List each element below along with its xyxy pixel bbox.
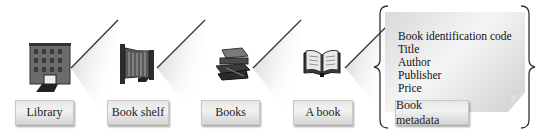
library-building-icon bbox=[28, 42, 74, 94]
stage-label-a-book: A book bbox=[293, 100, 353, 125]
wedge-2 bbox=[157, 20, 205, 110]
stage-label-book-metadata: Book metadata bbox=[395, 100, 469, 125]
metadata-field: Title bbox=[398, 43, 512, 56]
library-hierarchy-diagram: Book identification code Title Author Pu… bbox=[0, 0, 537, 134]
metadata-field: Price bbox=[398, 82, 512, 95]
metadata-field: Author bbox=[398, 56, 512, 69]
stage-label-bookshelf: Book shelf bbox=[107, 100, 169, 125]
bookshelf-icon bbox=[118, 42, 156, 86]
right-brace-icon bbox=[519, 4, 537, 130]
metadata-field-list: Book identification code Title Author Pu… bbox=[398, 30, 512, 108]
stage-label-books: Books bbox=[201, 100, 260, 125]
left-brace-icon bbox=[372, 4, 390, 130]
stack-of-books-icon bbox=[214, 46, 254, 82]
wedge-3 bbox=[253, 20, 301, 110]
metadata-field: Book identification code bbox=[398, 30, 512, 43]
metadata-field: Publisher bbox=[398, 69, 512, 82]
open-book-icon bbox=[302, 47, 342, 79]
stage-label-library: Library bbox=[15, 100, 74, 125]
wedge-1 bbox=[71, 20, 118, 110]
